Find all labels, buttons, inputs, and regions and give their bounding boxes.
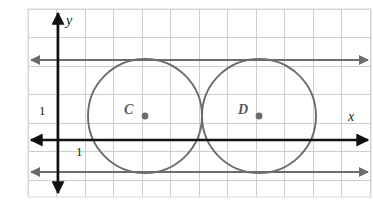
x-unit-label: 1 [76, 145, 83, 158]
coordinate-grid-figure: x y 1 1 C D [0, 0, 373, 211]
diagram-canvas [0, 0, 373, 211]
circle-d-label: D [238, 103, 248, 117]
y-axis-label: y [66, 14, 72, 28]
y-unit-label: 1 [39, 104, 46, 117]
x-axis-label: x [348, 110, 354, 124]
circle-c-label: C [124, 103, 133, 117]
